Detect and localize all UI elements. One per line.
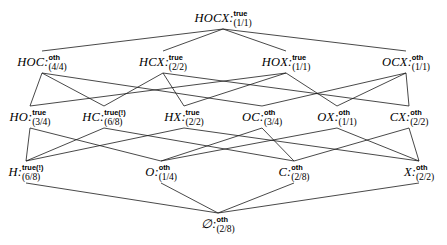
- lattice-edge: [42, 73, 262, 106]
- node-count: (1/1): [339, 117, 357, 127]
- lattice-edge: [223, 29, 406, 51]
- node-label: HOC: [17, 55, 44, 69]
- lattice-node-ocx: OCX:oth(1/1): [381, 52, 431, 72]
- node-label: HX: [164, 110, 181, 124]
- node-annotation: true(1/1): [292, 54, 310, 72]
- node-annotation: true(2/2): [186, 109, 204, 127]
- node-count: (4/4): [49, 62, 67, 72]
- node-count: (6/8): [22, 172, 43, 182]
- lattice-edge: [163, 73, 184, 106]
- node-label: ∅: [201, 217, 212, 231]
- lattice-node-ho: HO:true(3/4): [9, 107, 52, 127]
- node-label: X: [404, 165, 412, 179]
- lattice-edge: [42, 29, 223, 51]
- node-count: (2/2): [186, 117, 204, 127]
- node-annotation: oth(2/8): [217, 216, 235, 234]
- lattice-node-x: X:oth(2/2): [403, 162, 435, 182]
- node-annotation: oth(1/4): [159, 164, 177, 182]
- lattice-edge: [286, 73, 337, 106]
- node-count: (2/8): [291, 172, 309, 182]
- node-label: H: [9, 165, 18, 179]
- node-label: HOX: [262, 55, 288, 69]
- lattice-edge: [337, 128, 419, 161]
- lattice-node-o: O:oth(1/4): [144, 162, 178, 182]
- lattice-node-hocx: HOCX:true(1/1): [193, 8, 252, 28]
- node-label: OX: [317, 110, 334, 124]
- lattice-node-hcx: HCX:true(2/2): [138, 52, 188, 72]
- node-label: O: [145, 165, 154, 179]
- lattice-edge: [409, 128, 419, 161]
- lattice-edge: [218, 183, 419, 213]
- lattice-edge: [26, 128, 104, 161]
- node-count: (1/1): [233, 18, 251, 28]
- lattice-node-hc: HC:true(!)(6/8): [81, 107, 126, 127]
- node-annotation: true(1/1): [233, 10, 251, 28]
- lattice-node-hoc: HOC:oth(4/4): [16, 52, 67, 72]
- lattice-node-ox: OX:oth(1/1): [316, 107, 357, 127]
- node-count: (6/8): [104, 117, 125, 127]
- node-count: (2/8): [217, 224, 235, 234]
- node-count: (3/4): [32, 117, 50, 127]
- node-count: (2/2): [169, 62, 187, 72]
- node-label: CX: [390, 110, 406, 124]
- node-label: C: [279, 165, 288, 179]
- node-label: OC: [242, 110, 260, 124]
- lattice-node-cx: CX:oth(2/2): [389, 107, 430, 127]
- lattice-node-empty: ∅:oth(2/8): [200, 214, 235, 234]
- lattice-edge: [184, 128, 419, 161]
- lattice-edge: [223, 29, 286, 51]
- node-annotation: oth(4/4): [49, 54, 67, 72]
- node-annotation: true(3/4): [32, 109, 50, 127]
- lattice-edge: [406, 73, 409, 106]
- node-count: (2/2): [410, 117, 428, 127]
- node-annotation: oth(1/1): [339, 109, 357, 127]
- node-count: (1/4): [159, 172, 177, 182]
- lattice-edges: [0, 0, 447, 245]
- node-annotation: oth(2/2): [410, 109, 428, 127]
- node-annotation: oth(2/2): [416, 164, 434, 182]
- lattice-edge: [104, 128, 294, 161]
- lattice-edge: [30, 73, 42, 106]
- node-annotation: true(2/2): [169, 54, 187, 72]
- node-label: HOCX: [194, 11, 229, 25]
- node-count: (3/4): [264, 117, 282, 127]
- node-annotation: oth(3/4): [264, 109, 282, 127]
- node-label: HCX: [139, 55, 165, 69]
- lattice-edge: [30, 73, 286, 106]
- node-annotation: oth(1/1): [412, 54, 430, 72]
- node-annotation: oth(2/8): [291, 164, 309, 182]
- node-count: (2/2): [416, 172, 434, 182]
- node-label: OCX: [382, 55, 408, 69]
- lattice-diagram: HOCX:true(1/1)HOC:oth(4/4)HCX:true(2/2)H…: [0, 0, 447, 245]
- node-annotation: true(!)(6/8): [104, 109, 125, 127]
- node-count: (1/1): [412, 62, 430, 72]
- node-label: HO: [10, 110, 28, 124]
- lattice-node-hox: HOX:true(1/1): [261, 52, 312, 72]
- node-label: HC: [82, 110, 100, 124]
- lattice-node-hx: HX:true(2/2): [163, 107, 204, 127]
- lattice-node-c: C:oth(2/8): [278, 162, 311, 182]
- lattice-edge: [26, 128, 30, 161]
- lattice-edge: [218, 183, 294, 213]
- node-annotation: true(!)(6/8): [22, 164, 43, 182]
- lattice-node-oc: OC:oth(3/4): [241, 107, 283, 127]
- node-count: (1/1): [292, 62, 310, 72]
- lattice-node-h: H:true(!)(6/8): [8, 162, 45, 182]
